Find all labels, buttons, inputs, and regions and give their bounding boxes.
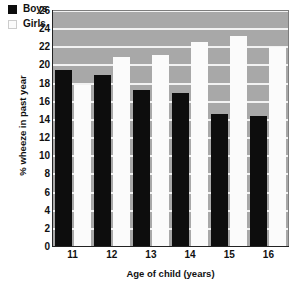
y-tick-label: 14 (24, 113, 50, 124)
y-tick-label: 20 (24, 59, 50, 70)
bar-boys-age-16 (250, 116, 267, 247)
y-tick-label: 10 (24, 150, 50, 161)
x-axis-title: Age of child (years) (53, 268, 288, 279)
y-tick-label: 8 (24, 168, 50, 179)
plot-area (53, 10, 289, 247)
bar-boys-age-14 (172, 93, 189, 247)
x-tick-label-13: 13 (145, 249, 156, 260)
gridline (53, 64, 288, 66)
bar-boys-age-11 (55, 70, 72, 247)
y-tick-label: 4 (24, 204, 50, 215)
gridline (53, 83, 288, 85)
bar-girls-age-15 (230, 36, 247, 247)
bar-girls-age-16 (269, 47, 286, 247)
chart-legend: Boys Girls (8, 4, 47, 29)
y-tick-label: 12 (24, 132, 50, 143)
x-tick-label-15: 15 (224, 249, 235, 260)
gridline (53, 46, 288, 48)
bar-boys-age-15 (211, 114, 228, 247)
x-tick-label-16: 16 (263, 249, 274, 260)
x-tick-label-11: 11 (67, 249, 78, 260)
black-square-swatch-icon (8, 5, 17, 14)
gridline (53, 10, 288, 12)
bar-girls-age-13 (152, 55, 169, 247)
gridline (53, 28, 288, 30)
y-tick-label: 22 (24, 41, 50, 52)
x-tick-label-14: 14 (185, 249, 196, 260)
bar-girls-age-11 (74, 85, 91, 247)
bar-girls-age-14 (191, 42, 208, 247)
legend-label-girls: Girls (23, 19, 46, 29)
y-tick-label: 16 (24, 95, 50, 106)
y-tick-label: 0 (24, 241, 50, 252)
x-tick-label-12: 12 (106, 249, 117, 260)
y-tick-label: 2 (24, 222, 50, 233)
y-tick-label: 6 (24, 186, 50, 197)
bar-chart: % wheeze in past year 024681012141618202… (0, 0, 296, 292)
bar-boys-age-13 (133, 90, 150, 247)
x-axis-tick-labels: 111213141516 (53, 249, 288, 265)
x-axis-line (52, 246, 289, 247)
legend-label-boys: Boys (23, 4, 47, 14)
bar-girls-age-12 (113, 57, 130, 247)
legend-item-girls: Girls (8, 19, 47, 29)
legend-item-boys: Boys (8, 4, 47, 14)
y-tick-label: 18 (24, 77, 50, 88)
bar-boys-age-12 (94, 75, 111, 247)
y-axis-tick-labels: 02468101214161820222426 (20, 0, 50, 292)
y-axis-line (52, 10, 53, 247)
white-square-swatch-icon (8, 20, 17, 29)
